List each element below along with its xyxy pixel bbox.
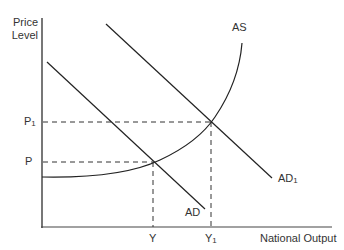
y-axis-label-line2: Level (8, 29, 38, 42)
p-tick-label: P (25, 156, 32, 167)
ad1-subscript: 1 (293, 176, 297, 185)
y1-subscript: 1 (212, 236, 216, 245)
p1-subscript: 1 (31, 119, 35, 128)
ad1-line (106, 24, 272, 178)
y-letter: Y (149, 232, 156, 244)
x-axis-label: National Output (260, 233, 336, 244)
ad1-label: AD1 (278, 173, 298, 185)
y-tick-label: Y (149, 233, 156, 244)
y1-tick-label: Y1 (205, 233, 217, 245)
ad-line (47, 62, 205, 209)
y-axis-label: Price Level (8, 16, 38, 42)
ad-as-diagram (0, 0, 344, 250)
ad-label: AD (185, 207, 200, 218)
as-label: AS (232, 22, 247, 33)
p1-tick-label: P1 (24, 116, 36, 128)
p-letter: P (25, 155, 32, 167)
y-axis-label-line1: Price (8, 16, 38, 29)
as-curve (42, 43, 242, 177)
ad1-letters: AD (278, 172, 293, 184)
